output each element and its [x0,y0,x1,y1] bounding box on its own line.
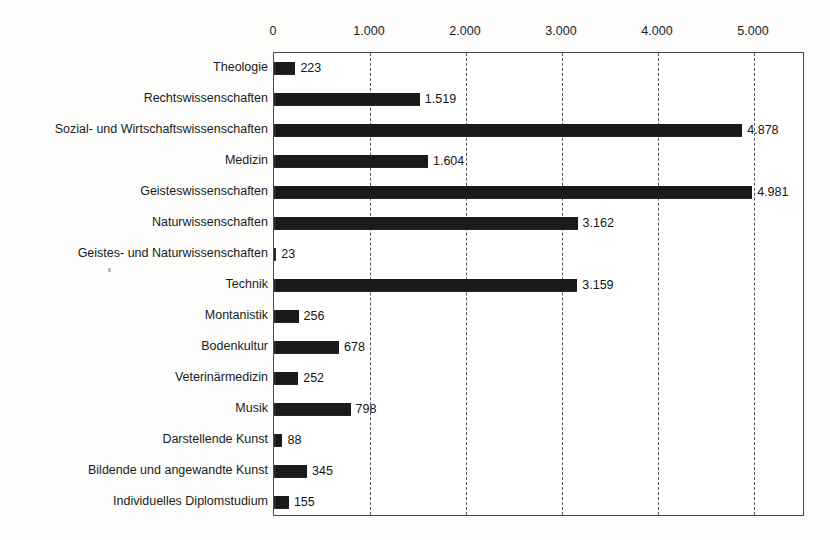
category-label-3: Sozial- und Wirtschaftswissenschaften [0,122,268,137]
bar [274,372,298,385]
scan-artifact-speck [108,268,111,272]
x-axis-tick-0: 0 [270,24,277,38]
bar-row: 3.162 [274,208,803,239]
bar [274,434,282,447]
bar [274,248,276,261]
x-axis-tick-2000: 2.000 [449,24,480,38]
x-axis-tick-5000: 5.000 [737,24,768,38]
bar-row: 155 [274,487,803,518]
bar [274,465,307,478]
bar-value-label: 23 [281,247,295,262]
bar-row: 4.981 [274,177,803,208]
bar-value-label: 88 [287,433,301,448]
bar-row: 798 [274,394,803,425]
bar [274,217,578,230]
bar-row: 252 [274,363,803,394]
bar-row: 345 [274,456,803,487]
bar [274,62,295,75]
bar [274,341,339,354]
bar-value-label: 1.519 [425,92,456,107]
bar-row: 1.519 [274,84,803,115]
bar-chart: 01.0002.0003.0004.0005.000 TheologieRech… [0,0,830,540]
bar-row: 4.878 [274,115,803,146]
bar-row: 678 [274,332,803,363]
bar-value-label: 345 [312,464,333,479]
category-label-11: Veterinärmedizin [0,370,268,385]
bar-value-label: 3.159 [582,278,613,293]
bar-row: 23 [274,239,803,270]
category-label-6: Naturwissenschaften [0,215,268,230]
category-label-4: Medizin [0,153,268,168]
bar-value-label: 1.604 [433,154,464,169]
bar [274,186,752,199]
bar-value-label: 798 [356,402,377,417]
category-label-9: Montanistik [0,308,268,323]
category-label-10: Bodenkultur [0,339,268,354]
category-label-1: Theologie [0,60,268,75]
category-label-12: Musik [0,401,268,416]
category-label-8: Technik [0,277,268,292]
bar [274,496,289,509]
bar [274,310,299,323]
bar-value-label: 223 [300,61,321,76]
category-label-15: Individuelles Diplomstudium [0,494,268,509]
bar-row: 88 [274,425,803,456]
category-label-5: Geisteswissenschaften [0,184,268,199]
x-axis-tick-3000: 3.000 [545,24,576,38]
category-label-7: Geistes- und Naturwissenschaften [0,246,268,261]
bar-value-label: 4.981 [757,185,788,200]
bar-row: 3.159 [274,270,803,301]
bar [274,124,742,137]
x-axis-tick-1000: 1.000 [353,24,384,38]
x-axis-tick-4000: 4.000 [641,24,672,38]
bar-value-label: 256 [304,309,325,324]
category-label-13: Darstellende Kunst [0,432,268,447]
category-label-14: Bildende und angewandte Kunst [0,463,268,478]
bar-value-label: 4.878 [747,123,778,138]
bar-value-label: 678 [344,340,365,355]
bar-value-label: 155 [294,495,315,510]
bar-row: 223 [274,53,803,84]
category-label-2: Rechtswissenschaften [0,91,268,106]
bar [274,279,577,292]
bar-row: 256 [274,301,803,332]
bar-row: 1.604 [274,146,803,177]
bar-value-label: 252 [303,371,324,386]
bar [274,155,428,168]
bar [274,403,351,416]
bar-value-label: 3.162 [583,216,614,231]
bar [274,93,420,106]
plot-area: 2231.5194.8781.6044.9813.162233.15925667… [273,52,804,516]
